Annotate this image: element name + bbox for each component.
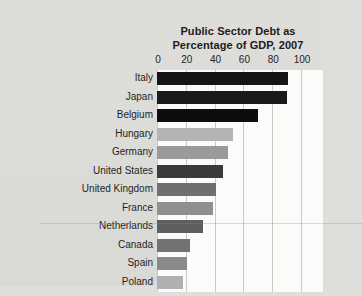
x-tick-label: 0 — [155, 54, 161, 65]
bar-row — [157, 181, 323, 200]
category-label: Japan — [40, 88, 153, 107]
category-label: United Kingdom — [40, 180, 153, 199]
category-label: Belgium — [40, 106, 153, 125]
page-fold-line — [40, 223, 362, 224]
bar — [157, 183, 216, 196]
bar — [157, 165, 223, 178]
category-label: Netherlands — [40, 217, 153, 236]
category-label: Canada — [40, 236, 153, 255]
bar-row — [157, 144, 323, 163]
x-tick-label: 80 — [268, 54, 279, 65]
x-tick-label: 100 — [294, 54, 311, 65]
x-tick-label: 20 — [181, 54, 192, 65]
bar — [157, 91, 287, 104]
x-tick-label: 60 — [239, 54, 250, 65]
chart-title-line-2: Percentage of GDP, 2007 — [138, 39, 338, 53]
chart-title-line-1: Public Sector Debt as — [138, 25, 338, 39]
category-label: Spain — [40, 254, 153, 273]
bar — [157, 257, 187, 270]
bar — [157, 72, 288, 85]
bar-row — [157, 218, 323, 237]
category-label: Hungary — [40, 125, 153, 144]
bar — [157, 146, 228, 159]
bar-row — [157, 70, 323, 89]
category-label: Poland — [40, 273, 153, 292]
bar-row — [157, 89, 323, 108]
bar — [157, 220, 203, 233]
bar-chart-figure: Public Sector Debt as Percentage of GDP,… — [40, 16, 362, 296]
bar — [157, 202, 213, 215]
bar-row — [157, 126, 323, 145]
bar — [157, 109, 258, 122]
bars-layer — [157, 70, 323, 292]
bar-row — [157, 237, 323, 256]
bar — [157, 128, 233, 141]
bar-row — [157, 107, 323, 126]
bar — [157, 239, 190, 252]
category-label: United States — [40, 162, 153, 181]
y-axis-category-labels: ItalyJapanBelgiumHungaryGermanyUnited St… — [40, 70, 153, 292]
bar-row — [157, 200, 323, 219]
bar-row — [157, 274, 323, 293]
bar-row — [157, 255, 323, 274]
category-label: Italy — [40, 69, 153, 88]
bar — [157, 276, 183, 289]
bar-row — [157, 163, 323, 182]
x-tick-label: 40 — [210, 54, 221, 65]
x-axis-tick-labels: 020406080100 — [40, 54, 362, 67]
category-label: Germany — [40, 143, 153, 162]
category-label: France — [40, 199, 153, 218]
chart-title: Public Sector Debt as Percentage of GDP,… — [138, 25, 338, 52]
